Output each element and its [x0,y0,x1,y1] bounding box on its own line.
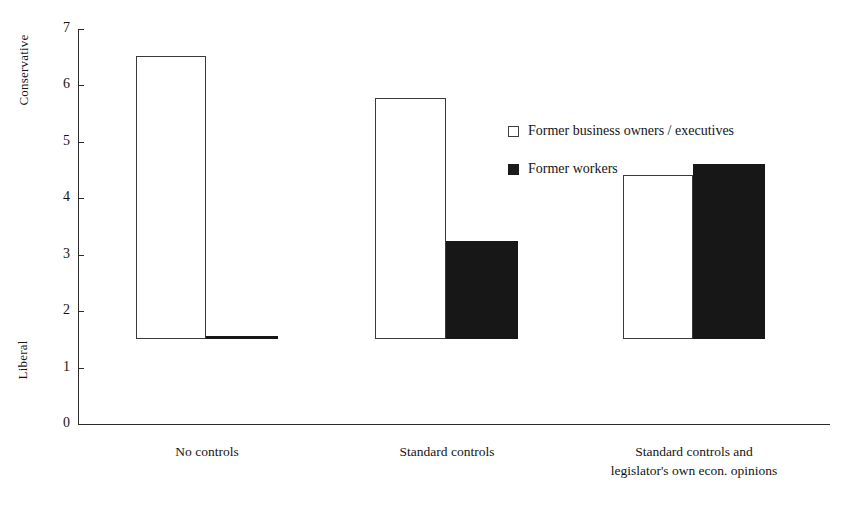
legend-item-label: Former business owners / executives [528,123,734,139]
x-axis-label-line: Standard controls and [544,442,844,461]
bar-filled-group-2 [446,241,518,339]
open-square-icon [508,126,519,137]
bar-filled-group-1 [206,336,278,339]
chart-legend: Former business owners / executivesForme… [508,121,734,197]
bar-open-group-1 [136,56,206,339]
bar-chart: Conservative Liberal 76543210 No control… [0,0,844,510]
plot-area [0,0,844,425]
bar-open-group-2 [375,98,446,340]
legend-item-2: Former workers [508,159,734,179]
bar-open-group-3 [623,175,693,339]
x-axis-label-line: legislator's own econ. opinions [544,461,844,480]
filled-square-icon [508,164,519,175]
x-axis-label-group-3: Standard controls andlegislator's own ec… [544,442,844,480]
legend-item-1: Former business owners / executives [508,121,734,141]
legend-item-label: Former workers [528,161,618,177]
